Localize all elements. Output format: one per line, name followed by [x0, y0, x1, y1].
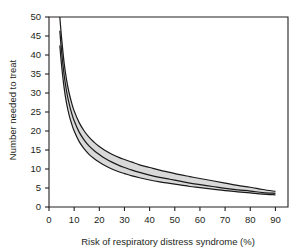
y-tick-label: 20	[30, 125, 41, 136]
y-tick-label: 30	[30, 87, 41, 98]
y-tick-label: 15	[30, 144, 41, 155]
chart-figure: 0102030405060708090 05101520253035404550…	[0, 0, 294, 252]
x-tick-label: 50	[170, 214, 181, 225]
x-tick-label: 30	[119, 214, 130, 225]
y-tick-label: 35	[30, 68, 41, 79]
nnt-risk-line-chart: 0102030405060708090 05101520253035404550…	[0, 0, 294, 252]
x-tick-label: 60	[195, 214, 206, 225]
y-axis-title: Number needed to treat	[7, 59, 18, 160]
y-tick-label: 40	[30, 49, 41, 60]
x-tick-label: 20	[94, 214, 105, 225]
x-axis-title: Risk of respiratory distress syndrome (%…	[81, 236, 255, 247]
y-tick-label: 10	[30, 163, 41, 174]
x-tick-label: 80	[245, 214, 256, 225]
y-tick-label: 5	[36, 182, 41, 193]
x-tick-label: 40	[144, 214, 155, 225]
y-tick-label: 25	[30, 106, 41, 117]
x-tick-label: 70	[220, 214, 231, 225]
x-tick-label: 0	[46, 214, 51, 225]
y-tick-label: 45	[30, 30, 41, 41]
y-tick-label: 50	[30, 11, 41, 22]
x-tick-label: 10	[69, 214, 80, 225]
y-tick-label: 0	[36, 201, 41, 212]
x-tick-label: 90	[270, 214, 281, 225]
